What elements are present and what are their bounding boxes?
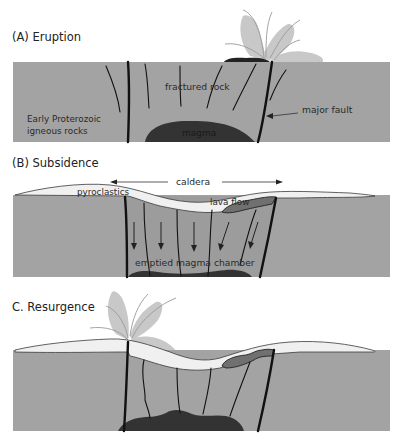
- ring-fault-left: [128, 62, 129, 142]
- caldera-formation-diagram: (A) Eruption magma fractured rock E: [0, 0, 396, 441]
- host-rock-label-line1: Early Proterozoic: [27, 114, 101, 124]
- panel-resurgence: C. Resurgence: [12, 291, 390, 431]
- lava-flow-label: lava flow: [210, 197, 249, 207]
- host-rock-label-line2: igneous rocks: [27, 126, 88, 136]
- panel-a-title: (A) Eruption: [12, 30, 81, 44]
- caldera-label: caldera: [176, 176, 210, 187]
- panel-b-title: (B) Subsidence: [12, 156, 99, 170]
- panel-subsidence: (B) Subsidence caldera pyroclastics lava…: [12, 156, 390, 277]
- magma-label: magma: [182, 128, 216, 138]
- panel-eruption: (A) Eruption magma fractured rock E: [12, 10, 390, 142]
- fractured-rock-label: fractured rock: [165, 81, 230, 92]
- eruption-plume-icon: [225, 10, 323, 64]
- panel-c-title: C. Resurgence: [12, 300, 95, 314]
- pyroclastics-label: pyroclastics: [77, 187, 130, 197]
- emptied-chamber-label: emptied magma chamber: [135, 257, 255, 268]
- major-fault-label: major fault: [302, 104, 353, 115]
